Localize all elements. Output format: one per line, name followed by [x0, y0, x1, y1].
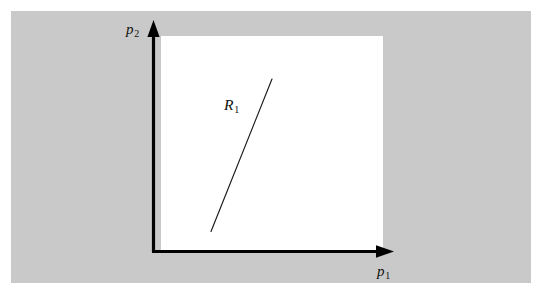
vertical-axis-label-variable: p [126, 21, 134, 37]
vertical-axis-label-subscript: 2 [134, 28, 140, 39]
horizontal-axis-label: p1 [377, 264, 390, 281]
horizontal-axis-label-variable: p [377, 263, 385, 279]
vertical-axis-label: p2 [126, 22, 139, 39]
horizontal-axis-arrowhead-icon [376, 245, 394, 257]
region-label-subscript: 1 [234, 104, 240, 115]
horizontal-axis-label-subscript: 1 [385, 270, 391, 281]
figure-vector-layer [0, 0, 543, 295]
vertical-axis-arrowhead-icon [147, 20, 159, 37]
region-label-variable: R [224, 96, 234, 113]
figure-root: p2 p1 R1 [0, 0, 543, 295]
region-boundary-line [211, 79, 272, 232]
region-label: R1 [224, 97, 239, 115]
